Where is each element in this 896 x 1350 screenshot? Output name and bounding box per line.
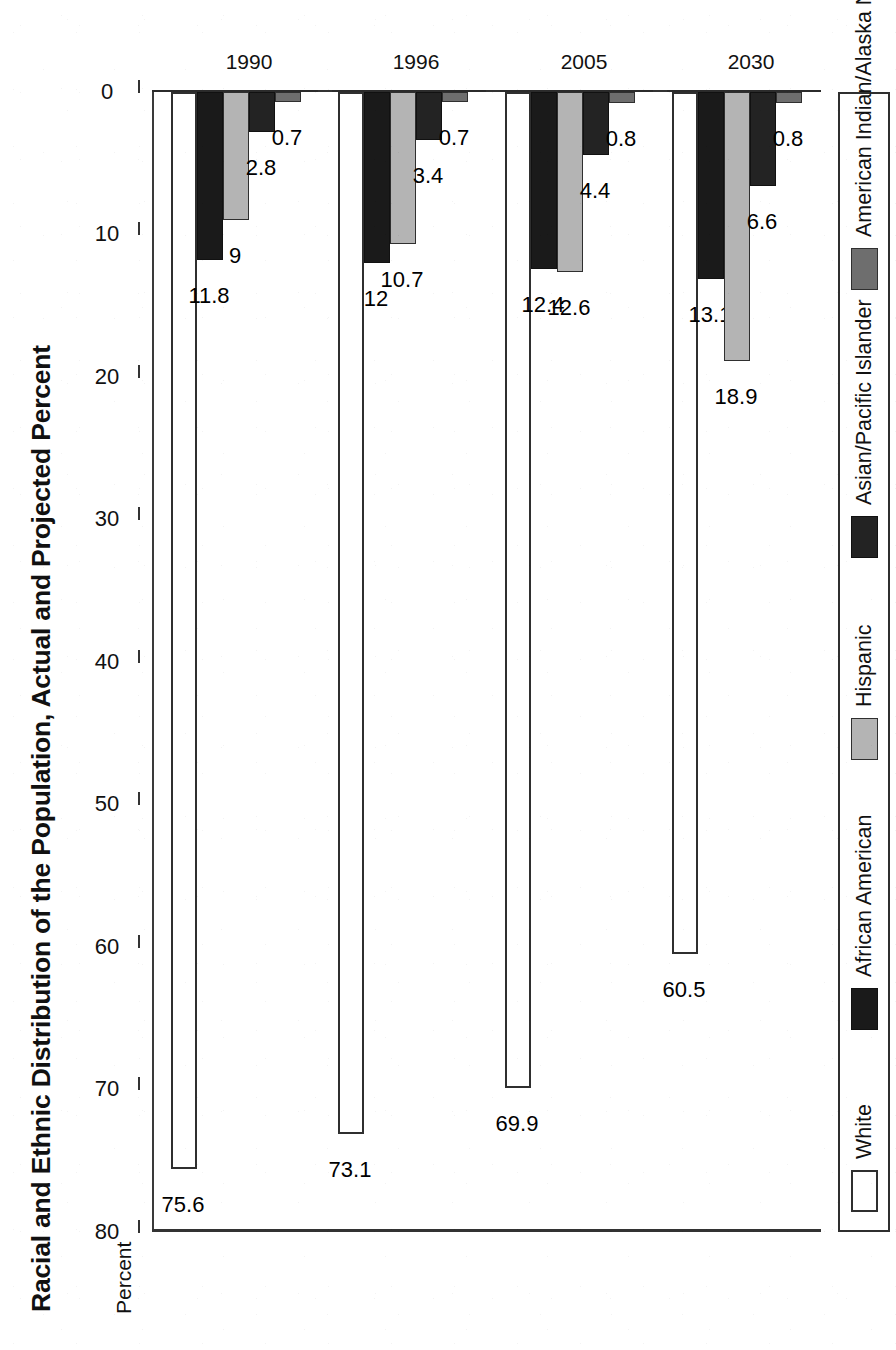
value-tick-label: 50 xyxy=(77,792,137,818)
legend-label: Asian/Pacific Islander xyxy=(852,299,877,505)
bar xyxy=(531,92,557,269)
value-tick-label: 10 xyxy=(77,222,137,248)
value-tick-label: 60 xyxy=(77,934,137,960)
bar xyxy=(442,92,468,102)
bar-value-label: 9 xyxy=(203,243,267,269)
bar-value-label: 12.6 xyxy=(537,295,601,321)
bar xyxy=(698,92,724,279)
legend-item: African American xyxy=(840,814,888,1030)
bar xyxy=(197,92,223,260)
legend-label: Hispanic xyxy=(852,625,877,707)
bar-value-label: 10.7 xyxy=(370,267,434,293)
value-tick xyxy=(138,1220,140,1233)
bar-value-label: 3.4 xyxy=(396,163,460,189)
value-axis-title: Percent xyxy=(112,1242,136,1314)
value-tick-label: 30 xyxy=(77,507,137,533)
value-tick-label: 40 xyxy=(77,649,137,675)
bar xyxy=(338,92,364,1134)
legend-item: White xyxy=(840,1104,888,1212)
legend-swatch-icon xyxy=(851,718,878,760)
value-tick xyxy=(138,508,140,521)
chart-legend: WhiteAfrican AmericanHispanicAsian/Pacif… xyxy=(838,92,890,1232)
value-tick xyxy=(138,365,140,378)
bar-value-label: 73.1 xyxy=(318,1157,382,1183)
bar-value-label: 75.6 xyxy=(151,1192,215,1218)
value-tick-label: 0 xyxy=(77,79,137,105)
category-label: 2030 xyxy=(691,50,811,74)
bar-value-label: 69.9 xyxy=(485,1111,549,1137)
bar-value-label: 18.9 xyxy=(704,384,768,410)
value-tick xyxy=(138,793,140,806)
value-tick xyxy=(138,223,140,236)
bar-value-label: 0.7 xyxy=(255,125,319,151)
category-label: 1996 xyxy=(356,50,476,74)
value-tick-label: 80 xyxy=(77,1219,137,1245)
chart-figure: Racial and Ethnic Distribution of the Po… xyxy=(0,0,896,1350)
category-label: 1990 xyxy=(189,50,309,74)
bar xyxy=(275,92,301,102)
bar xyxy=(672,92,698,954)
bar xyxy=(364,92,390,263)
bar xyxy=(505,92,531,1088)
value-tick xyxy=(138,650,140,663)
legend-item: Hispanic xyxy=(840,625,888,760)
value-tick xyxy=(138,935,140,948)
bar-value-label: 0.7 xyxy=(422,125,486,151)
bar xyxy=(776,92,802,103)
bar-value-label: 2.8 xyxy=(229,155,293,181)
legend-label: African American xyxy=(852,814,877,977)
value-tick-label: 70 xyxy=(77,1077,137,1103)
bar-value-label: 0.8 xyxy=(589,126,653,152)
bar xyxy=(171,92,197,1169)
bar-value-label: 4.4 xyxy=(563,178,627,204)
legend-item: Asian/Pacific Islander xyxy=(840,299,888,558)
value-tick xyxy=(138,1078,140,1091)
legend-label: White xyxy=(852,1104,877,1159)
legend-label: American Indian/Alaska Native xyxy=(852,0,877,237)
bar-value-label: 0.8 xyxy=(756,126,820,152)
value-tick-label: 20 xyxy=(77,364,137,390)
legend-swatch-icon xyxy=(851,1170,878,1212)
bar-value-label: 60.5 xyxy=(652,977,716,1003)
legend-swatch-icon xyxy=(851,516,878,558)
bar-value-label: 6.6 xyxy=(730,209,794,235)
value-axis-line xyxy=(152,1230,821,1233)
category-tick xyxy=(318,90,332,92)
legend-swatch-icon xyxy=(851,988,878,1030)
category-tick xyxy=(486,90,500,92)
bar xyxy=(609,92,635,103)
chart-title: Racial and Ethnic Distribution of the Po… xyxy=(26,345,57,1312)
category-tick xyxy=(653,90,667,92)
legend-item: American Indian/Alaska Native xyxy=(840,0,888,290)
category-label: 2005 xyxy=(524,50,644,74)
value-tick xyxy=(138,80,140,93)
bar-value-label: 11.8 xyxy=(177,283,241,309)
legend-swatch-icon xyxy=(851,248,878,290)
